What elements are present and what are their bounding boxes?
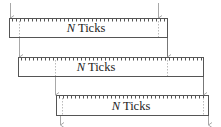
box-label: N Ticks [66,21,106,35]
box-3: N Ticks [57,96,209,116]
ticks-diagram: N Ticks N Ticks N Ticks [0,0,221,127]
box-1: N Ticks [10,3,168,38]
box-label: N Ticks [76,60,116,74]
box-label: N Ticks [111,99,151,113]
box-2: N Ticks [19,58,204,77]
